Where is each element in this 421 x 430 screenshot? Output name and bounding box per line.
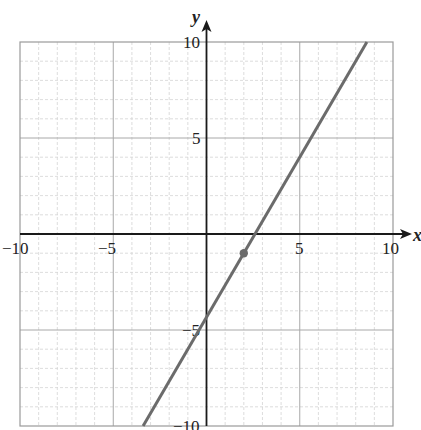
x-tick-label: 10: [382, 239, 399, 258]
y-tick-label: 10: [183, 33, 200, 52]
y-axis-label: y: [190, 7, 201, 27]
data-point: [240, 249, 248, 257]
x-tick-label: −10: [2, 239, 29, 258]
x-axis-label: x: [412, 225, 421, 245]
axes: [20, 28, 404, 426]
x-tick-label: 5: [295, 239, 304, 258]
y-tick-label: −10: [173, 417, 200, 430]
coordinate-plane: x y −10 −5 5 10 10 5 −5 −10: [0, 0, 421, 430]
y-tick-label: 5: [192, 129, 201, 148]
x-tick-label: −5: [98, 239, 116, 258]
